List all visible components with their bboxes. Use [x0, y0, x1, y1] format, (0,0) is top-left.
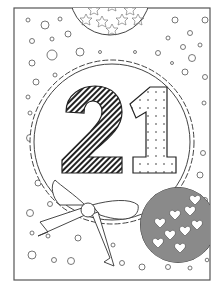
- birthday-21-illustration: [0, 0, 224, 287]
- heart-balloon: [140, 187, 216, 263]
- coloring-page: [0, 0, 224, 287]
